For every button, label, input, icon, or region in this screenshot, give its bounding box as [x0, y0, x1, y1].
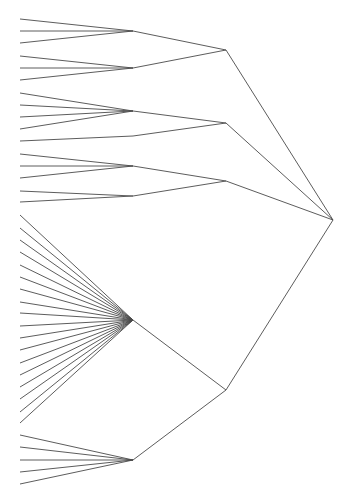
edge-leaf-cluster-d2-1 — [20, 435, 133, 460]
edge-leaf-cluster-a2-1 — [20, 56, 133, 68]
edge-leaf-cluster-d1-14 — [20, 320, 133, 375]
edge-group-b-to-root — [226, 123, 333, 220]
edge-leaf-cluster-a2-3 — [20, 68, 133, 80]
edge-cluster-a2-to-group-a — [133, 50, 226, 68]
edge-leaf-cluster-d1-9 — [20, 313, 133, 320]
edge-leaf-cluster-a1-1 — [20, 19, 133, 31]
edge-leaf-cluster-c2-2 — [20, 196, 133, 202]
edge-leaf-cluster-d1-15 — [20, 320, 133, 387]
edge-leaf-cluster-c1-1 — [20, 154, 133, 166]
edge-leaf-cluster-d1-2 — [20, 228, 133, 320]
edge-leaf-cluster-d1-13 — [20, 320, 133, 363]
tree-edges — [20, 19, 333, 484]
edge-cluster-a1-to-group-a — [133, 31, 226, 50]
edge-cluster-b1-to-group-b — [133, 111, 226, 123]
edge-leaf-cluster-d1-5 — [20, 265, 133, 320]
edge-cluster-b2-to-group-b — [133, 123, 226, 136]
edge-leaf-cluster-d1-16 — [20, 320, 133, 399]
edge-cluster-d2-to-group-d — [133, 390, 226, 460]
edge-leaf-cluster-a1-3 — [20, 31, 133, 43]
edge-leaf-cluster-d2-4 — [20, 460, 133, 472]
edge-leaf-cluster-d1-17 — [20, 320, 133, 412]
edge-cluster-d1-to-group-d — [133, 320, 226, 390]
edge-group-a-to-root — [226, 50, 333, 220]
dendrogram — [0, 0, 345, 500]
edge-group-c-to-root — [226, 181, 333, 220]
edge-leaf-cluster-d2-2 — [20, 447, 133, 460]
edge-cluster-c2-to-group-c — [133, 181, 226, 196]
edge-leaf-cluster-b2-1 — [20, 136, 133, 141]
edge-leaf-cluster-c1-3 — [20, 166, 133, 178]
edge-leaf-cluster-d2-5 — [20, 460, 133, 484]
edge-group-d-to-root — [226, 220, 333, 390]
edge-leaf-cluster-d1-4 — [20, 252, 133, 320]
edge-cluster-c1-to-group-c — [133, 166, 226, 181]
edge-leaf-cluster-c2-1 — [20, 191, 133, 196]
edge-leaf-cluster-d1-3 — [20, 240, 133, 320]
edge-leaf-cluster-d1-6 — [20, 277, 133, 320]
